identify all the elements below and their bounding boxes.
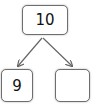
part-left-value: 9 [12, 77, 22, 95]
part-box-left: 9 [1, 69, 33, 102]
whole-value: 10 [35, 11, 54, 29]
whole-box: 10 [22, 5, 68, 35]
arrow-to-left-part [18, 38, 42, 66]
arrow-to-right-part [43, 38, 72, 66]
part-box-right-empty[interactable] [55, 69, 90, 102]
